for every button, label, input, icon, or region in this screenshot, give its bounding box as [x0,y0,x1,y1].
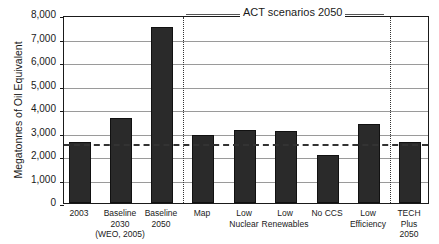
y-tick-label: 4,000 [6,103,56,114]
gridline [64,64,428,65]
bar [317,155,339,203]
x-tick-label: TECH Plus 2050 [379,208,439,240]
bar-chart: Megatonnes of Oil Equivalent 01,0002,000… [0,0,439,244]
act-bracket-left [186,14,242,15]
y-tick-mark [60,111,64,112]
y-tick-label: 6,000 [6,56,56,67]
bar [110,118,132,203]
y-tick-mark [60,182,64,183]
y-tick-mark [60,88,64,89]
gridline [64,111,428,112]
group-separator [183,17,184,203]
y-tick-label: 1,000 [6,174,56,185]
act-scenarios-label: ACT scenarios 2050 [240,6,345,18]
y-tick-mark [60,158,64,159]
y-tick-mark [60,205,64,206]
bar [399,142,421,203]
group-separator [390,17,391,203]
reference-line-2003 [64,144,428,146]
bar [275,131,297,203]
gridline [64,88,428,89]
y-tick-mark [60,41,64,42]
y-tick-label: 8,000 [6,9,56,20]
bar [358,124,380,203]
bar [69,142,91,203]
y-tick-mark [60,64,64,65]
gridline [64,41,428,42]
bar [151,27,173,203]
y-tick-mark [60,135,64,136]
y-tick-label: 0 [6,197,56,208]
y-tick-label: 5,000 [6,80,56,91]
bar [234,130,256,203]
y-tick-label: 2,000 [6,150,56,161]
y-tick-label: 3,000 [6,127,56,138]
plot-area [63,16,429,204]
y-tick-mark [60,17,64,18]
y-tick-label: 7,000 [6,33,56,44]
